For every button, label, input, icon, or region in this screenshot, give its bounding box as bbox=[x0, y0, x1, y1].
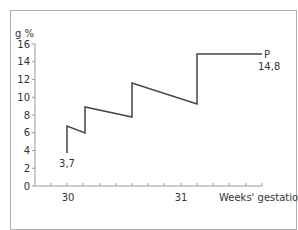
y-tick-label-6: 6 bbox=[24, 127, 30, 138]
end-marker-label: P bbox=[264, 49, 270, 60]
y-axis-title: g % bbox=[15, 28, 34, 39]
y-tick-label-8: 8 bbox=[24, 110, 30, 121]
y-tick-label-16: 16 bbox=[17, 39, 30, 50]
data-line bbox=[67, 54, 262, 153]
start-value-label: 3,7 bbox=[59, 158, 75, 169]
x-tick-label-30: 30 bbox=[62, 192, 75, 203]
y-tick-label-14: 14 bbox=[17, 56, 30, 67]
x-tick-label-31: 31 bbox=[175, 192, 188, 203]
x-axis-title: Weeks' gestation bbox=[219, 192, 298, 203]
y-tick-label-4: 4 bbox=[24, 145, 30, 156]
y-tick-label-2: 2 bbox=[24, 163, 30, 174]
chart-svg: 0 2 4 6 8 10 12 14 16 g % 30 31 Weeks' g… bbox=[0, 0, 298, 218]
y-tick-label-0: 0 bbox=[24, 181, 30, 192]
y-tick-label-12: 12 bbox=[17, 74, 30, 85]
y-tick-label-10: 10 bbox=[17, 92, 30, 103]
end-value-label: 14,8 bbox=[258, 61, 280, 72]
